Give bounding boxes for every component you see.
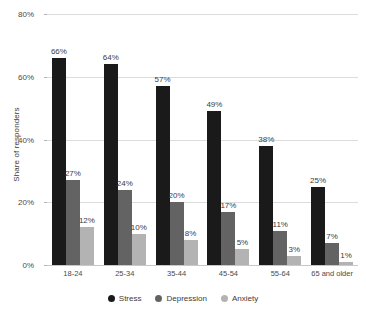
bar-value-label: 3% (279, 245, 309, 254)
y-axis-tick-label: 40% (0, 135, 34, 144)
bar-value-label: 8% (176, 229, 206, 238)
y-axis-tick-label: 0% (0, 261, 34, 270)
bar-value-label: 49% (199, 100, 229, 109)
bar[interactable] (156, 86, 170, 265)
legend-item[interactable]: Anxiety (221, 294, 258, 303)
y-axis-tick-mark (44, 202, 47, 203)
chart-legend: StressDepressionAnxiety (0, 294, 366, 303)
legend-label: Anxiety (232, 294, 258, 303)
bar-group: 57%20%8% (156, 14, 198, 265)
bar[interactable] (339, 262, 353, 265)
bar-value-label: 7% (317, 232, 347, 241)
y-axis-title: Share of responders (12, 85, 21, 205)
legend-swatch-icon (108, 295, 115, 302)
bar[interactable] (184, 240, 198, 265)
bar-value-label: 1% (331, 251, 361, 260)
bar-value-label: 66% (44, 47, 74, 56)
plot-area: 0%20%40%60%80%66%27%12%18-2464%24%10%25-… (47, 14, 358, 265)
legend-label: Stress (119, 294, 142, 303)
gridline (47, 265, 358, 266)
bar-group: 66%27%12% (52, 14, 94, 265)
bar[interactable] (52, 58, 66, 265)
bar-value-label: 64% (96, 53, 126, 62)
bar-chart: Share of responders 0%20%40%60%80%66%27%… (0, 0, 366, 322)
y-axis-tick-mark (44, 140, 47, 141)
legend-item[interactable]: Stress (108, 294, 142, 303)
y-axis-tick-label: 20% (0, 198, 34, 207)
legend-item[interactable]: Depression (155, 294, 206, 303)
bar-value-label: 25% (303, 176, 333, 185)
bar[interactable] (104, 64, 118, 265)
legend-swatch-icon (155, 295, 162, 302)
bar-value-label: 24% (110, 179, 140, 188)
bar-value-label: 27% (58, 169, 88, 178)
bar-value-label: 17% (213, 201, 243, 210)
bar-value-label: 20% (162, 191, 192, 200)
bar-value-label: 38% (251, 135, 281, 144)
bar-value-label: 12% (72, 216, 102, 225)
bar-group: 49%17%5% (207, 14, 249, 265)
bar[interactable] (80, 227, 94, 265)
legend-label: Depression (166, 294, 206, 303)
bar-value-label: 57% (148, 75, 178, 84)
bar[interactable] (235, 249, 249, 265)
bar-group: 38%11%3% (259, 14, 301, 265)
y-axis-tick-mark (44, 14, 47, 15)
bar[interactable] (259, 146, 273, 265)
bar-value-label: 5% (227, 238, 257, 247)
y-axis-tick-label: 80% (0, 10, 34, 19)
bar[interactable] (132, 234, 146, 265)
x-axis-tick-label: 65 and older (292, 269, 366, 278)
bar[interactable] (207, 111, 221, 265)
legend-swatch-icon (221, 295, 228, 302)
y-axis-tick-mark (44, 77, 47, 78)
y-axis-tick-mark (44, 265, 47, 266)
bar-group: 25%7%1% (311, 14, 353, 265)
y-axis-tick-label: 60% (0, 72, 34, 81)
bar[interactable] (311, 187, 325, 265)
bar[interactable] (287, 256, 301, 265)
bar-value-label: 10% (124, 223, 154, 232)
bar-group: 64%24%10% (104, 14, 146, 265)
bar-value-label: 11% (265, 220, 295, 229)
